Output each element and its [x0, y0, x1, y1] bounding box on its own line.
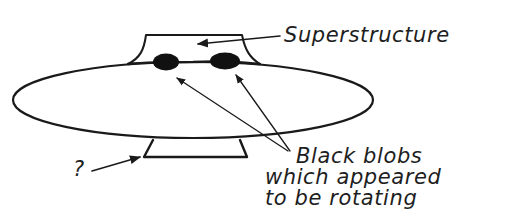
blob-arrow-left	[177, 78, 288, 151]
blob-arrow-right	[236, 75, 290, 151]
saucer-base	[144, 140, 247, 157]
black-blob-left	[153, 54, 179, 71]
ufo-diagram: Superstructure Black blobs which appeare…	[0, 0, 509, 221]
unknown-label: ?	[73, 157, 85, 181]
saucer-body	[13, 62, 373, 138]
superstructure-arrow	[198, 36, 280, 44]
black-blobs-label-line3: to be rotating	[265, 186, 417, 210]
unknown-arrow	[92, 157, 140, 171]
superstructure-label: Superstructure	[284, 23, 450, 47]
black-blob-right	[210, 53, 240, 70]
